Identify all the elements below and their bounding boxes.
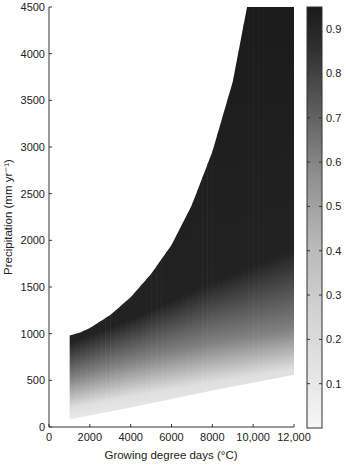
heatmap-strip — [253, 7, 259, 427]
y-tick-label: 1000 — [21, 328, 45, 340]
colorbar-tick-label: 0.2 — [326, 333, 341, 345]
heatmap-strip — [95, 7, 101, 427]
heatmap-strip — [172, 7, 178, 427]
heatmap-strip — [274, 7, 280, 427]
colorbar-tick-label: 0.4 — [326, 245, 341, 257]
heatmap-strip — [223, 7, 229, 427]
heatmap-strip — [110, 7, 116, 427]
heatmap-strip — [69, 7, 75, 427]
y-ticks: 050010001500200025003000350040004500 — [21, 1, 52, 433]
x-tick-label: 2000 — [78, 431, 102, 443]
heatmap-strip — [238, 7, 244, 427]
x-tick-label: 10,000 — [236, 431, 270, 443]
y-tick-label: 500 — [27, 374, 45, 386]
heatmap-strip — [90, 7, 96, 427]
x-tick-label: 8000 — [200, 431, 224, 443]
heatmap-strip — [228, 7, 234, 427]
heatmap-strip — [263, 7, 269, 427]
colorbar-tick-label: 0.9 — [326, 23, 341, 35]
colorbar-tick-label: 0.5 — [326, 200, 341, 212]
y-tick-label: 2500 — [21, 188, 45, 200]
heatmap-strip — [80, 7, 86, 427]
colorbar-gradient — [307, 7, 322, 428]
heatmap-strip — [187, 7, 193, 427]
heatmap-strip — [233, 7, 239, 427]
heatmap-strip — [243, 7, 249, 427]
heatmap-strip — [126, 7, 132, 427]
x-tick-label: 0 — [46, 431, 52, 443]
heatmap-strip — [85, 7, 91, 427]
y-tick-label: 4000 — [21, 48, 45, 60]
heatmap-strip — [136, 7, 142, 427]
heatmap-strip — [197, 7, 203, 427]
heatmap-strip — [268, 7, 274, 427]
y-axis-title: Precipitation (mm yr⁻¹) — [2, 159, 14, 275]
x-tick-label: 12,000 — [277, 431, 311, 443]
heatmap-strip — [115, 7, 121, 427]
heatmap-strip — [151, 7, 157, 427]
heatmap-strip — [202, 7, 208, 427]
heatmap-strip — [75, 7, 81, 427]
heatmap-strip — [105, 7, 111, 427]
heatmap-strip — [279, 7, 285, 427]
colorbar-tick-label: 0.6 — [326, 156, 341, 168]
heatmap-strip — [248, 7, 254, 427]
colorbar-tick-label: 0.7 — [326, 112, 341, 124]
x-axis-title: Growing degree days (°C) — [104, 449, 237, 461]
heatmap-strip — [212, 7, 218, 427]
heatmap-strip — [207, 7, 213, 427]
heatmap-strip — [120, 7, 126, 427]
chart: 0200040006000800010,00012,000 0500100015… — [0, 0, 346, 466]
colorbar-tick-label: 0.8 — [326, 67, 341, 79]
x-tick-label: 6000 — [159, 431, 183, 443]
heatmap-strip — [141, 7, 147, 427]
heatmap-strip — [289, 7, 295, 427]
heatmap-strip — [131, 7, 137, 427]
colorbar-tick-label: 0.3 — [326, 289, 341, 301]
heatmap-strip — [100, 7, 106, 427]
colorbar: 0.10.20.30.40.50.60.70.80.9 — [307, 7, 341, 428]
heatmap-region — [69, 7, 294, 427]
heatmap-strip — [217, 7, 223, 427]
heatmap-strip — [166, 7, 172, 427]
heatmap-strip — [177, 7, 183, 427]
x-tick-label: 4000 — [118, 431, 142, 443]
heatmap-strip — [146, 7, 152, 427]
y-tick-label: 2000 — [21, 234, 45, 246]
colorbar-tick-label: 0.1 — [326, 378, 341, 390]
heatmap-strip — [182, 7, 188, 427]
y-tick-label: 1500 — [21, 281, 45, 293]
heatmap-strip — [258, 7, 264, 427]
heatmap-strip — [192, 7, 198, 427]
heatmap-strip — [156, 7, 162, 427]
heatmap-strip — [161, 7, 167, 427]
y-tick-label: 3000 — [21, 141, 45, 153]
y-tick-label: 0 — [39, 421, 45, 433]
y-tick-label: 4500 — [21, 1, 45, 13]
y-tick-label: 3500 — [21, 94, 45, 106]
heatmap-strip — [284, 7, 290, 427]
